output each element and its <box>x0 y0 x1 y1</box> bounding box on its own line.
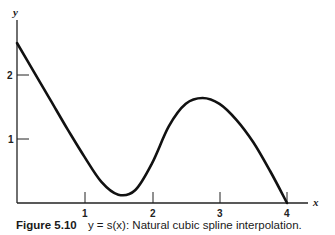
figure-caption: Figure 5.10 y = s(x): Natural cubic spli… <box>16 219 302 231</box>
y-tick-label-1: 1 <box>8 134 14 145</box>
x-tick-label-1: 1 <box>82 208 88 219</box>
figure-text: y = s(x): Natural cubic spline interpola… <box>88 219 302 231</box>
figure-label: Figure 5.10 <box>16 219 77 231</box>
spline-chart: 1 2 1 2 3 4 y x <box>0 0 335 235</box>
y-axis-label: y <box>11 6 18 18</box>
spline-curve <box>17 43 287 203</box>
y-tick-label-2: 2 <box>7 70 13 81</box>
x-tick-label-2: 2 <box>150 208 156 219</box>
x-tick-label-3: 3 <box>217 208 223 219</box>
x-axis-label: x <box>312 196 319 208</box>
x-tick-label-4: 4 <box>284 208 290 219</box>
